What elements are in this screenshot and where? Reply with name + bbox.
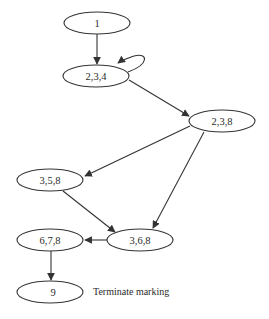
node-label: 2,3,8: [212, 116, 233, 127]
reachability-graph: 1 2,3,4 2,3,8 3,5,8 3,6,8 6,7,8 9 Termin…: [0, 0, 269, 319]
node-3-5-8: 3,5,8: [17, 169, 83, 191]
node-label: 9: [50, 287, 55, 298]
edge-234-to-238: [129, 80, 189, 116]
node-label: 3,5,8: [40, 175, 61, 186]
edge-358-to-368: [63, 191, 115, 232]
edge-238-to-358: [85, 126, 190, 176]
edge-238-to-368: [153, 132, 204, 228]
node-label: 1: [94, 18, 99, 29]
node-3-6-8: 3,6,8: [107, 229, 173, 251]
node-9: 9: [17, 281, 83, 303]
node-label: 6,7,8: [40, 235, 61, 246]
node-2-3-8: 2,3,8: [189, 110, 255, 132]
node-label: 2,3,4: [86, 71, 108, 82]
node-2-3-4: 2,3,4: [63, 65, 129, 87]
node-6-7-8: 6,7,8: [17, 229, 83, 251]
node-label: 3,6,8: [130, 235, 151, 246]
node-1: 1: [64, 12, 130, 34]
terminate-marking-label: Terminate marking: [93, 286, 169, 297]
